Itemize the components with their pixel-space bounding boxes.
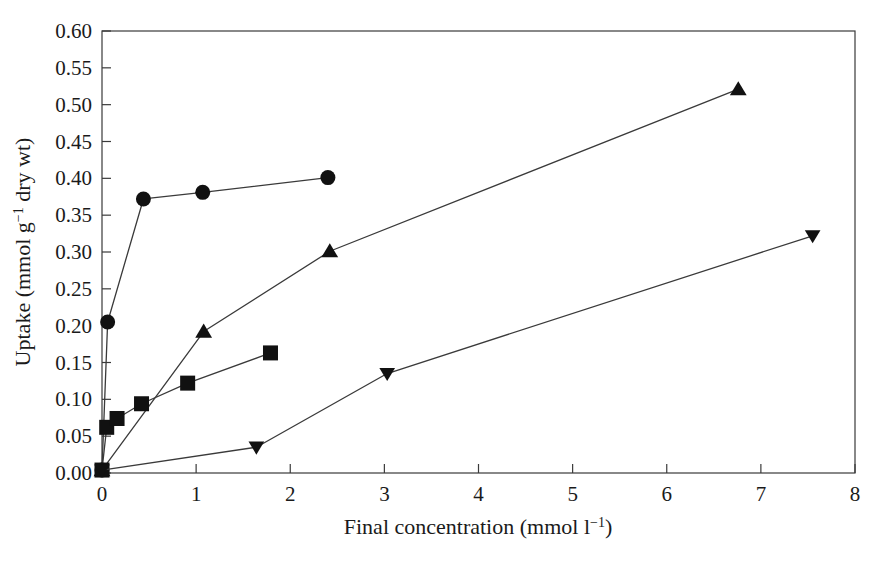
y-axis-tick-labels: 0.000.050.100.150.200.250.300.350.400.45… — [55, 19, 92, 485]
uptake-vs-concentration-chart: 0.000.050.100.150.200.250.300.350.400.45… — [0, 0, 876, 561]
x-tick-label: 4 — [473, 482, 484, 506]
y-tick-label: 0.40 — [55, 166, 92, 190]
y-tick-label: 0.15 — [55, 351, 92, 375]
y-tick-label: 0.30 — [55, 240, 92, 264]
series-triangle-down-series — [94, 230, 820, 477]
y-tick-label: 0.00 — [55, 461, 92, 485]
x-tick-label: 1 — [191, 482, 202, 506]
y-tick-label: 0.20 — [55, 314, 92, 338]
data-point-triangle-up — [730, 81, 747, 95]
series-line — [102, 89, 738, 470]
x-tick-label: 5 — [567, 482, 578, 506]
y-tick-label: 0.60 — [55, 19, 92, 43]
y-tick-label: 0.55 — [55, 56, 92, 80]
x-tick-label: 8 — [850, 482, 861, 506]
x-axis-ticks — [102, 464, 855, 473]
y-axis-title: Uptake (mmol g−1 dry wt) — [10, 138, 35, 367]
y-tick-label: 0.50 — [55, 93, 92, 117]
svg-text:Final concentration (mmol l−1): Final concentration (mmol l−1) — [344, 514, 612, 539]
x-tick-label: 6 — [662, 482, 673, 506]
y-tick-label: 0.45 — [55, 130, 92, 154]
x-axis-tick-labels: 012345678 — [97, 482, 861, 506]
data-point-square — [110, 411, 125, 426]
data-point-triangle-down — [379, 368, 395, 381]
y-tick-label: 0.05 — [55, 424, 92, 448]
data-point-triangle-up — [321, 243, 338, 257]
x-axis-title: Final concentration (mmol l−1) — [344, 514, 612, 539]
series-triangle-up-series — [94, 81, 747, 476]
data-series-layer — [94, 81, 821, 477]
y-axis-ticks — [102, 31, 111, 473]
data-point-triangle-down — [805, 230, 821, 243]
series-line — [102, 236, 813, 470]
x-tick-label: 3 — [379, 482, 390, 506]
x-tick-label: 7 — [756, 482, 767, 506]
data-point-circle — [136, 191, 151, 206]
y-tick-label: 0.25 — [55, 277, 92, 301]
series-line — [102, 353, 270, 470]
data-point-square — [134, 396, 149, 411]
x-tick-label: 0 — [97, 482, 108, 506]
data-point-square — [180, 376, 195, 391]
data-point-triangle-up — [195, 324, 212, 338]
plot-frame — [102, 31, 855, 473]
x-tick-label: 2 — [285, 482, 296, 506]
y-tick-label: 0.10 — [55, 387, 92, 411]
data-point-square — [263, 345, 278, 360]
data-point-circle — [195, 185, 210, 200]
svg-text:Uptake (mmol g−1 dry wt): Uptake (mmol g−1 dry wt) — [10, 138, 35, 367]
data-point-circle — [320, 170, 335, 185]
y-tick-label: 0.35 — [55, 203, 92, 227]
figure-root: 0.000.050.100.150.200.250.300.350.400.45… — [0, 0, 876, 561]
data-point-circle — [100, 314, 115, 329]
